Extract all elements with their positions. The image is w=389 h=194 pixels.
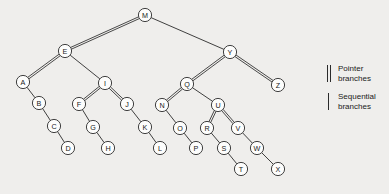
edge-r-s-sequential — [211, 133, 219, 143]
edge-n-o-sequential — [166, 110, 176, 123]
edge-u-r-pointer — [209, 111, 216, 123]
edge-e-i-sequential — [70, 55, 100, 79]
edge-b-c-sequential — [43, 109, 51, 121]
node-o[interactable]: O — [173, 121, 186, 134]
edge-i-f-pointer — [84, 86, 101, 100]
edge-w-x-sequential — [262, 153, 274, 165]
edge-y-q-pointer — [192, 55, 226, 81]
node-q[interactable]: Q — [180, 77, 193, 90]
node-label-j: J — [125, 100, 129, 109]
legend: Pointer branches Sequential branches — [326, 64, 388, 120]
node-label-q: Q — [184, 80, 190, 89]
node-n[interactable]: N — [155, 98, 168, 111]
node-y[interactable]: Y — [223, 45, 236, 58]
node-label-d: D — [65, 144, 70, 153]
edge-o-p-sequential — [184, 133, 192, 143]
node-j[interactable]: J — [120, 97, 133, 110]
node-p[interactable]: P — [189, 141, 202, 154]
node-b[interactable]: B — [32, 96, 45, 109]
node-label-c: C — [51, 122, 56, 131]
single-bar-icon — [326, 92, 335, 111]
node-label-t: T — [239, 165, 244, 174]
node-label-w: W — [254, 144, 261, 153]
node-label-v: V — [236, 124, 241, 133]
node-t[interactable]: T — [234, 162, 247, 175]
node-g[interactable]: G — [86, 120, 99, 133]
legend-item-pointer: Pointer branches — [326, 64, 388, 83]
edge-s-t-sequential — [228, 153, 237, 164]
node-z[interactable]: Z — [271, 78, 284, 91]
node-k[interactable]: K — [138, 120, 151, 133]
node-s[interactable]: S — [217, 141, 230, 154]
node-u[interactable]: U — [211, 98, 224, 111]
node-label-r: R — [204, 124, 209, 133]
edge-k-l-sequential — [149, 132, 156, 142]
node-m[interactable]: M — [138, 8, 151, 21]
node-label-f: F — [77, 100, 82, 109]
node-label-i: I — [104, 79, 106, 88]
nodes-layer: MEYAIQZBFJNUCGKORVDHLPSWTX — [16, 8, 284, 175]
edges-layer — [27, 17, 273, 164]
edge-m-y-sequential — [151, 18, 224, 50]
node-h[interactable]: H — [101, 141, 114, 154]
legend-label-sequential: Sequential branches — [338, 92, 376, 111]
node-label-s: S — [222, 144, 227, 153]
edge-q-u-sequential — [192, 88, 212, 102]
legend-label-pointer: Pointer branches — [338, 64, 371, 83]
edge-a-b-sequential — [27, 87, 35, 98]
node-i[interactable]: I — [98, 76, 111, 89]
node-w[interactable]: W — [250, 141, 263, 154]
node-x[interactable]: X — [271, 162, 284, 175]
node-label-y: Y — [228, 48, 233, 57]
node-d[interactable]: D — [61, 141, 74, 154]
node-label-p: P — [194, 144, 199, 153]
edge-e-a-pointer — [28, 54, 61, 79]
edge-i-j-pointer — [109, 87, 123, 100]
node-label-x: X — [276, 165, 281, 174]
edge-j-k-sequential — [131, 109, 141, 122]
node-label-u: U — [215, 101, 220, 110]
node-label-o: O — [177, 124, 183, 133]
legend-item-sequential: Sequential branches — [326, 92, 388, 111]
node-label-h: H — [105, 144, 110, 153]
edge-v-w-sequential — [243, 133, 253, 143]
edge-u-v-pointer — [222, 109, 235, 123]
node-label-n: N — [159, 101, 164, 110]
edge-y-z-pointer — [235, 55, 273, 82]
node-label-l: L — [158, 144, 162, 153]
edge-g-h-sequential — [97, 132, 104, 142]
edge-c-d-sequential — [58, 132, 65, 143]
node-v[interactable]: V — [231, 121, 244, 134]
tree-diagram: MEYAIQZBFJNUCGKORVDHLPSWTX Pointer branc… — [0, 0, 389, 194]
node-label-b: B — [37, 99, 42, 108]
node-label-m: M — [142, 11, 148, 20]
node-l[interactable]: L — [153, 141, 166, 154]
node-label-k: K — [143, 123, 148, 132]
node-label-a: A — [21, 78, 26, 87]
node-f[interactable]: F — [72, 97, 85, 110]
node-label-g: G — [90, 123, 96, 132]
node-e[interactable]: E — [58, 44, 71, 57]
node-label-e: E — [63, 47, 68, 56]
double-bar-icon — [326, 64, 335, 83]
edge-m-e-pointer — [71, 17, 140, 49]
node-a[interactable]: A — [16, 75, 29, 88]
node-c[interactable]: C — [47, 119, 60, 132]
edge-q-n-pointer — [166, 88, 182, 102]
edge-f-g-sequential — [82, 110, 89, 122]
node-label-z: Z — [276, 81, 281, 90]
node-r[interactable]: R — [200, 121, 213, 134]
